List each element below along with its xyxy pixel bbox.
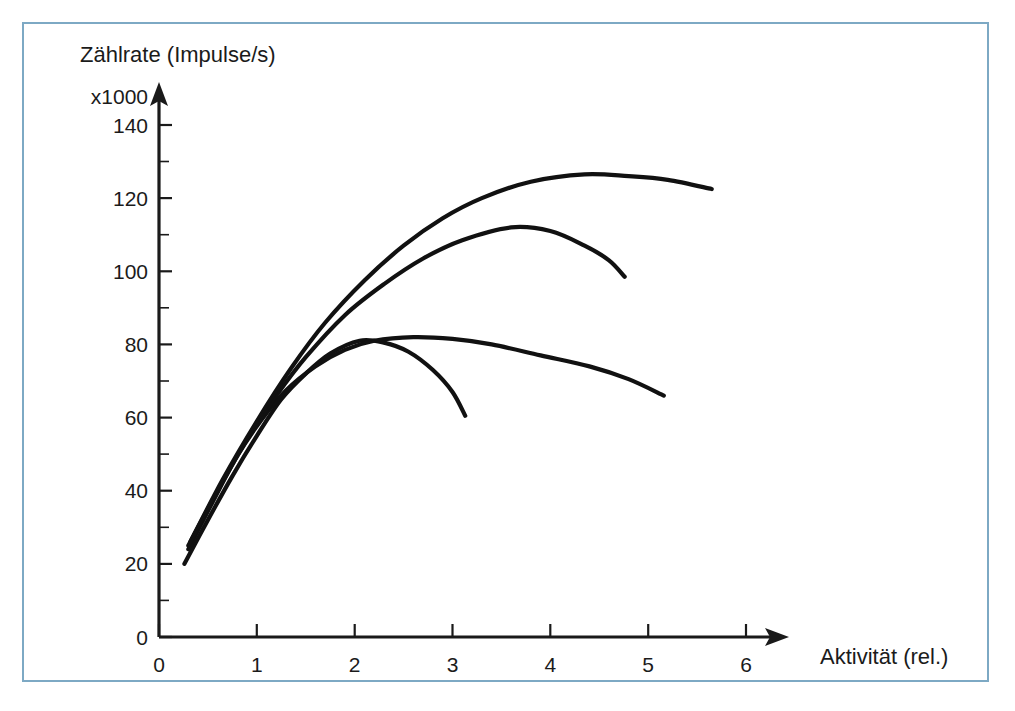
x-tick-label: 4 xyxy=(544,653,556,676)
chart-plot-area: Zählrate (Impulse/s) x1000 xyxy=(0,0,1015,711)
curve-a-lowest-peak xyxy=(184,340,465,564)
x-tick-label: 5 xyxy=(642,653,654,676)
curve-d-highest-peak xyxy=(190,174,711,542)
y-tick-label: 0 xyxy=(136,626,148,649)
x-axis-tick-labels: 0 1 2 3 4 5 6 xyxy=(153,653,752,676)
y-tick-label: 40 xyxy=(125,479,148,502)
curve-b-flat-plateau xyxy=(188,337,663,549)
x-tick-label: 6 xyxy=(740,653,752,676)
y-axis-tick-labels: 0 20 40 60 80 100 120 140 xyxy=(113,114,148,649)
y-tick-label: 100 xyxy=(113,260,148,283)
x-tick-label: 1 xyxy=(251,653,263,676)
y-tick-label: 140 xyxy=(113,114,148,137)
x-tick-label: 2 xyxy=(349,653,361,676)
y-axis-title: Zählrate (Impulse/s) xyxy=(80,42,276,67)
y-tick-label: 80 xyxy=(125,333,148,356)
y-axis-multiplier-label: x1000 xyxy=(91,85,148,108)
y-tick-label: 60 xyxy=(125,406,148,429)
figure-root: Zählrate (Impulse/s) x1000 xyxy=(0,0,1015,711)
curve-c-mid-peak xyxy=(188,227,624,546)
x-axis-title: Aktivität (rel.) xyxy=(820,644,948,669)
y-tick-label: 20 xyxy=(125,552,148,575)
y-tick-label: 120 xyxy=(113,187,148,210)
x-axis-major-ticks xyxy=(159,624,746,637)
data-curves-group xyxy=(184,174,711,564)
x-tick-label: 3 xyxy=(447,653,459,676)
x-tick-label: 0 xyxy=(153,653,165,676)
